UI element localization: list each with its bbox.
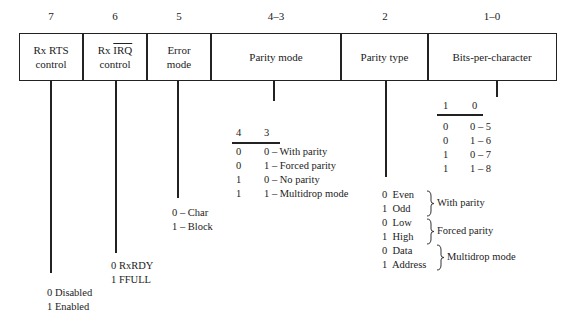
field-label: Rx RTS — [33, 43, 68, 57]
leader-line-bit6 — [115, 81, 117, 253]
bit-number-5: 5 — [176, 10, 182, 22]
bit-number-7: 7 — [48, 10, 54, 22]
parity-mode-row-b4: 0 — [236, 146, 241, 157]
bpc-row-b1: 1 — [443, 163, 448, 174]
leader-line-bit7 — [50, 81, 52, 273]
parity-group-label: With parity — [437, 197, 485, 208]
bpc-header-rule — [437, 114, 483, 116]
field-label: control — [98, 57, 133, 71]
bpc-header-0: 0 — [472, 100, 477, 111]
parity-type-value: 1 Odd — [382, 202, 411, 216]
field-label: Error — [167, 43, 191, 57]
field-label: Rx — [98, 44, 114, 56]
parity-mode-row-b4: 1 — [236, 174, 241, 185]
parity-mode-header-rule — [232, 142, 280, 144]
parity-group-label: Forced parity — [437, 225, 493, 236]
parity-type-value: 0 Data — [382, 244, 412, 258]
bpc-header-1: 1 — [443, 100, 448, 111]
bit-number-1-0: 1–0 — [484, 10, 501, 22]
parity-mode-row-b3: 0 – No parity — [264, 174, 320, 185]
leader-line-bit1-0 — [496, 81, 498, 97]
error-mode-value-0: 0 – Char — [172, 206, 208, 220]
field-error-mode: Error mode — [147, 33, 211, 81]
bit-number-2: 2 — [382, 10, 388, 22]
field-label: Parity type — [361, 50, 409, 64]
bpc-row-b1: 0 — [443, 121, 448, 132]
parity-mode-row-b3: 1 – Multidrop mode — [264, 188, 348, 199]
rx-rts-value-1: 1 Enabled — [47, 300, 89, 314]
field-parity-type: Parity type — [341, 33, 428, 81]
field-rx-irq-control: Rx IRQ control — [83, 33, 147, 81]
field-label: Bits-per-character — [452, 50, 531, 64]
field-parity-mode: Parity mode — [211, 33, 341, 81]
bpc-row-b0: 1 – 6 — [470, 135, 491, 146]
field-bits-per-character: Bits-per-character — [428, 33, 556, 81]
leader-line-bit2 — [385, 81, 387, 177]
brace-icon — [435, 244, 447, 274]
bpc-row-b0: 0 – 5 — [470, 121, 491, 132]
error-mode-value-1: 1 – Block — [172, 220, 213, 234]
field-label: Parity mode — [249, 50, 302, 64]
bpc-row-b1: 1 — [443, 149, 448, 160]
parity-mode-header-4: 4 — [236, 127, 241, 138]
parity-group-label: Multidrop mode — [447, 251, 516, 262]
parity-mode-row-b3: 1 – Forced parity — [264, 160, 336, 171]
field-rx-rts-control: Rx RTS control — [19, 33, 83, 81]
bit-number-4-3: 4–3 — [268, 10, 285, 22]
parity-type-value: 0 Even — [382, 188, 414, 202]
field-label: control — [33, 57, 68, 71]
parity-mode-row-b4: 1 — [236, 188, 241, 199]
irq-overline-label: IRQ — [113, 44, 132, 56]
parity-mode-row-b3: 0 – With parity — [264, 146, 327, 157]
parity-mode-row-b4: 0 — [236, 160, 241, 171]
parity-mode-header-3: 3 — [264, 127, 269, 138]
rx-irq-value-0: 0 RxRDY — [111, 259, 153, 273]
parity-type-value: 1 Address — [382, 258, 426, 272]
field-label: mode — [167, 57, 191, 71]
leader-line-bit5 — [177, 81, 179, 198]
parity-type-value: 0 Low — [382, 216, 412, 230]
parity-type-value: 1 High — [382, 230, 414, 244]
rx-rts-value-0: 0 Disabled — [47, 286, 92, 300]
rx-irq-value-1: 1 FFULL — [111, 273, 151, 287]
bpc-row-b0: 0 – 7 — [470, 149, 491, 160]
bpc-row-b0: 1 – 8 — [470, 163, 491, 174]
bpc-row-b1: 0 — [443, 135, 448, 146]
leader-line-bit4-3 — [273, 81, 275, 101]
bit-number-6: 6 — [112, 10, 118, 22]
